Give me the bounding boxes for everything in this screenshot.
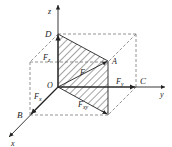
force-fz-label: Fz bbox=[42, 53, 51, 63]
force-decomposition-diagram: z y x D A C B O F Fz Fy Fx Fxy bbox=[0, 0, 172, 147]
point-d-label: D bbox=[44, 29, 52, 39]
force-fy-label: Fy bbox=[115, 77, 124, 87]
force-fx-label: Fx bbox=[33, 92, 42, 102]
z-axis-label: z bbox=[47, 7, 52, 16]
point-c-label: C bbox=[140, 76, 147, 86]
point-a-label: A bbox=[111, 57, 117, 66]
force-f-label: F bbox=[79, 68, 85, 77]
origin-label: O bbox=[47, 81, 53, 90]
x-axis-label: x bbox=[10, 139, 15, 147]
y-axis-label: y bbox=[159, 90, 164, 99]
point-b-label: B bbox=[17, 110, 23, 120]
